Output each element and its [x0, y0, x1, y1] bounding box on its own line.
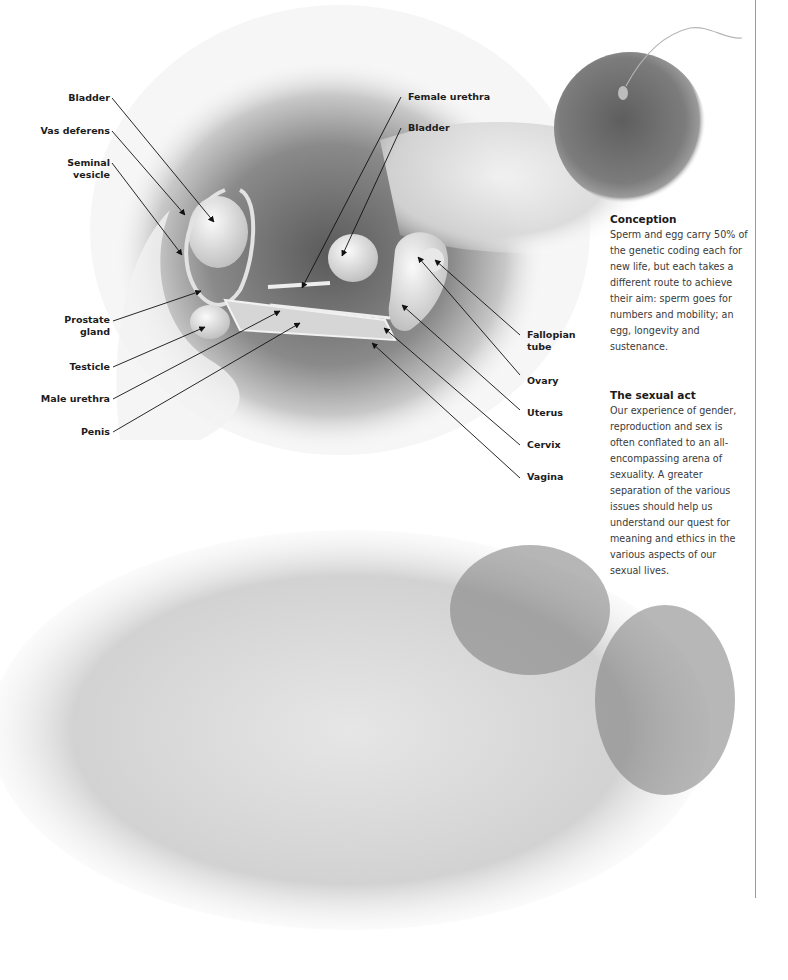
sperm-head: [618, 86, 628, 100]
illustration-placeholder: [0, 530, 735, 930]
egg-micrograph: [554, 28, 742, 204]
column-rule: [755, 0, 756, 898]
label-bladder-male: Bladder: [0, 92, 110, 104]
label-ovary: Ovary: [527, 375, 647, 387]
female-bladder-shape: [328, 234, 378, 282]
male-bladder-shape: [188, 196, 248, 268]
conception-heading: Conception: [610, 213, 750, 225]
label-prostate-gland: Prostate gland: [0, 314, 110, 338]
label-male-urethra: Male urethra: [0, 393, 110, 405]
label-penis: Penis: [0, 426, 110, 438]
label-testicle: Testicle: [0, 361, 110, 373]
sexual-act-body: Our experience of gender, reproduction a…: [610, 403, 750, 579]
sidebar-conception: Conception Sperm and egg carry 50% of th…: [610, 213, 750, 355]
conception-body: Sperm and egg carry 50% of the genetic c…: [610, 227, 750, 355]
sidebar-sexual-act: The sexual act Our experience of gender,…: [610, 389, 750, 579]
ovary-shape: [420, 248, 444, 272]
label-bladder-female: Bladder: [408, 122, 528, 134]
label-seminal-vesicle: Seminal vesicle: [0, 157, 110, 181]
label-female-urethra: Female urethra: [408, 91, 528, 103]
testicle-shape: [190, 305, 230, 339]
sexual-act-heading: The sexual act: [610, 389, 750, 401]
label-vas-deferens: Vas deferens: [0, 125, 110, 137]
